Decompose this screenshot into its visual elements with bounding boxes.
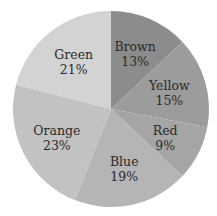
pie-chart: Brown13%Yellow15%Red9%Blue19%Orange23%Gr… [0,0,217,216]
slice-category-label: Blue [110,154,139,169]
slice-category-label: Green [54,47,93,62]
slice-percent-label: 19% [110,169,138,184]
slice-percent-label: 23% [43,138,71,153]
slice-percent-label: 9% [155,138,175,153]
slice-category-label: Brown [114,39,155,54]
slice-category-label: Yellow [148,78,190,93]
slice-percent-label: 21% [60,62,88,77]
slice-category-label: Orange [33,123,80,138]
slice-percent-label: 13% [121,54,149,69]
slice-percent-label: 15% [155,93,183,108]
slice-category-label: Red [153,123,178,138]
